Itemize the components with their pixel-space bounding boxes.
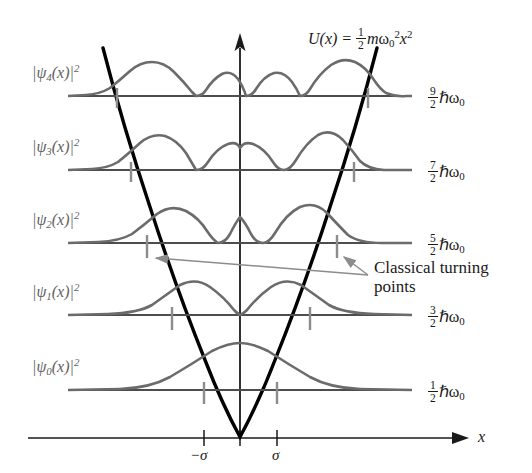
figure-canvas: |ψ4(x)|2 |ψ3(x)|2 |ψ2(x)|2 |ψ1(x)|2 |ψ0(…: [0, 0, 532, 473]
energy-label-n0: 12ℏω0: [428, 379, 465, 404]
state-label-n1: |ψ1(x)|2: [32, 281, 79, 302]
energy-label-n4: 92ℏω0: [428, 85, 465, 110]
classical-turning-points-label: Classical turning points: [374, 258, 489, 296]
arrow-to-left-turning-point: [156, 258, 368, 275]
potential-energy-formula: U(x) = 12mω02x2: [308, 26, 412, 51]
energy-label-n2: 52ℏω0: [428, 232, 465, 257]
state-label-n4: |ψ4(x)|2: [32, 62, 79, 83]
x-tick-label-sigma: σ: [272, 447, 279, 464]
state-label-n3: |ψ3(x)|2: [32, 136, 79, 157]
x-axis-label: x: [478, 428, 485, 446]
arrow-to-right-turning-point: [344, 257, 368, 275]
energy-label-n3: 72ℏω0: [428, 159, 465, 184]
energy-label-n1: 32ℏω0: [428, 304, 465, 329]
energy-axis: [235, 33, 246, 438]
annotation-line-1: Classical turning: [374, 258, 489, 277]
state-label-n0: |ψ0(x)|2: [32, 356, 79, 377]
classical-turning-points-arrows: [156, 257, 368, 275]
state-label-n2: |ψ2(x)|2: [32, 209, 79, 230]
x-tick-label-minus-sigma: −σ: [190, 447, 208, 464]
x-axis: [28, 430, 466, 446]
annotation-line-2: points: [374, 277, 489, 296]
